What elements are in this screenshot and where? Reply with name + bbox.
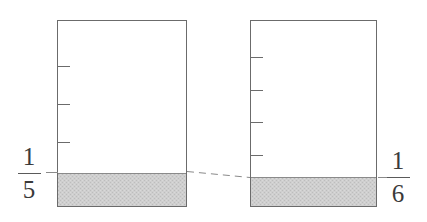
left-fraction-numerator: 1: [12, 142, 46, 172]
left-bar-group: [46, 21, 187, 207]
right-fraction-numerator: 1: [381, 146, 415, 176]
right-fraction-bar: [387, 177, 410, 178]
right-fraction-denominator: 6: [381, 179, 415, 209]
figure-canvas: [0, 0, 427, 222]
dashed-comparison-line: [187, 172, 250, 178]
left-fraction-label: 1 5: [12, 142, 46, 205]
right-fraction-label: 1 6: [381, 146, 415, 209]
right-bar-group: [251, 21, 390, 207]
left-fraction-bar: [18, 173, 41, 174]
left-fraction-denominator: 5: [12, 175, 46, 205]
right-bar-shaded-region: [251, 178, 377, 207]
left-bar-shaded-region: [58, 174, 187, 207]
fraction-comparison-figure: 1 5 1 6: [0, 0, 427, 222]
